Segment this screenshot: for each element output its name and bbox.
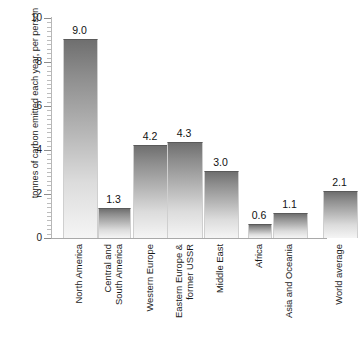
bar[interactable] xyxy=(133,145,169,238)
y-tick-label: 4 xyxy=(16,145,42,155)
bar-value-label: 1.1 xyxy=(265,199,314,210)
y-tick-label: 2 xyxy=(16,189,42,199)
bar[interactable] xyxy=(204,171,239,238)
category-label-line: North America xyxy=(74,244,85,303)
bar[interactable] xyxy=(323,191,358,238)
x-axis-category-label: Western Europe xyxy=(145,244,156,312)
bar-value-label: 4.3 xyxy=(159,128,209,139)
category-label-line: Middle East xyxy=(215,244,226,293)
category-label-line: Africa xyxy=(254,244,265,268)
category-label-line: Western Europe xyxy=(145,244,156,312)
x-axis-category-label: Eastern Europe &former USSR xyxy=(174,244,195,318)
bar[interactable] xyxy=(63,39,98,238)
y-tick-label: 8 xyxy=(16,57,42,67)
bar[interactable] xyxy=(98,208,131,238)
category-label-line: former USSR xyxy=(184,244,195,318)
x-axis-category-label: North America xyxy=(74,244,85,303)
x-axis-category-label: World average xyxy=(334,244,345,305)
category-label-line: Asia and Oceania xyxy=(284,244,295,318)
bar[interactable] xyxy=(273,213,308,238)
bar[interactable] xyxy=(248,224,272,238)
y-tick-label: 10 xyxy=(16,13,42,23)
y-tick-major xyxy=(44,194,51,195)
y-tick-major xyxy=(44,150,51,151)
y-tick-major xyxy=(44,18,51,19)
y-tick-label: 0 xyxy=(16,233,42,243)
category-label-line: Central and xyxy=(103,244,114,305)
bar-value-label: 3.0 xyxy=(196,157,245,168)
y-tick-label: 6 xyxy=(16,101,42,111)
bar-value-label: 2.1 xyxy=(315,177,362,188)
x-axis-category-label: Africa xyxy=(254,244,265,268)
category-label-line: South America xyxy=(114,244,125,305)
x-axis-category-label: Asia and Oceania xyxy=(284,244,295,318)
bar-value-label: 0.6 xyxy=(240,210,278,221)
y-tick-major xyxy=(44,62,51,63)
x-axis-line xyxy=(51,238,327,239)
y-tick-major xyxy=(44,238,51,239)
category-label-line: World average xyxy=(334,244,345,305)
x-axis-category-label: Central andSouth America xyxy=(103,244,124,305)
bar-value-label: 9.0 xyxy=(55,25,104,36)
category-label-line: Eastern Europe & xyxy=(174,244,185,318)
y-tick-major xyxy=(44,106,51,107)
x-axis-category-label: Middle East xyxy=(215,244,226,293)
bar-value-label: 1.3 xyxy=(90,194,137,205)
